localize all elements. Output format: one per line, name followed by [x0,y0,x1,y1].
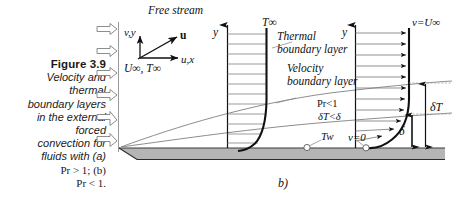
inflow-arrow [97,134,117,147]
thermal-bl-line-2: boundary layer [277,43,348,55]
inflow-arrow [97,46,117,57]
velocity-bl-line-2: boundary layer [287,75,358,87]
velocity-bl-line-1: Velocity [287,62,323,74]
v-y-label: v,y [124,26,136,38]
plate-wall [119,148,445,160]
freestream-velocity-label: v=U∞ [412,16,440,28]
wall-temperature-label: Tw [321,130,334,142]
inflow-arrow-group [97,24,117,147]
inflow-arrow [97,90,117,101]
free-stream-label: Free stream [148,4,203,16]
temperature-tick-group [228,34,267,143]
inflow-arrow [97,24,117,35]
t-infinity-label: T∞ [262,16,277,28]
velocity-label-leader [276,98,296,103]
delta-velocity-label: δ [399,124,405,139]
prandtl-condition-label: Pr<1 [317,98,338,109]
delta-condition-label: δT<δ [318,111,341,122]
thermal-boundary-layer-label: Thermal boundary layer [277,30,348,55]
delta-thermal-label: δT [430,100,442,115]
panel-letter-label: b) [278,176,288,191]
wall-velocity-label: v=0 [348,131,366,143]
inflow-conditions-text: U∞, T∞ [124,62,161,74]
thermal-bl-line-1: Thermal [277,30,316,42]
diagram-canvas [0,0,467,208]
temperature-profile-curve [238,28,267,151]
velocity-boundary-layer-label: Velocity boundary layer [287,62,358,87]
wall-temperature-leader [310,140,321,146]
coordinate-vectors [138,36,178,59]
velocity-axis-y-label: y [342,26,347,38]
wall-temperature-marker [304,144,310,150]
temperature-axis-y-label: y [213,26,218,38]
inflow-conditions-label: U∞, T∞ [124,62,161,74]
velocity-vector-label: u [180,29,186,41]
u-x-label: u,x [181,53,194,65]
no-slip-marker [363,145,369,151]
inflow-arrow [97,68,117,79]
inflow-arrow [97,112,117,126]
wall-body [119,148,445,160]
resultant-velocity-arrow [138,37,177,59]
figure-3-9: Figure 3.9 Velocity and thermal boundary… [0,0,467,208]
